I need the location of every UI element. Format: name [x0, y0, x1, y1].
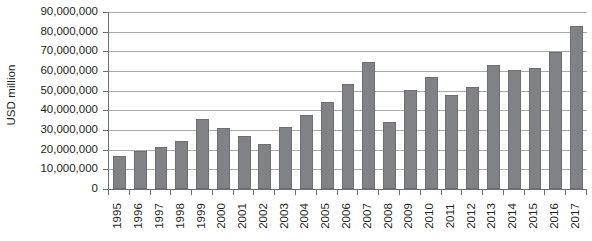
x-axis-tick-label-text: 2006	[341, 203, 353, 229]
x-axis-tick-label-text: 2011	[445, 204, 457, 229]
x-axis-tick-mark	[441, 190, 442, 195]
bar	[238, 136, 251, 189]
x-axis-tick-mark	[565, 190, 566, 195]
x-axis-tick-label-text: 2015	[528, 203, 540, 229]
x-axis-tick-mark	[274, 190, 275, 195]
x-axis-tick-label-text: 2010	[424, 203, 436, 229]
bar	[466, 87, 479, 189]
x-axis-tick-mark	[191, 190, 192, 195]
x-axis-tick-mark	[357, 190, 358, 195]
bar	[155, 147, 168, 189]
y-axis-tick-label: 80,000,000	[40, 26, 98, 38]
x-axis-tick-label-text: 2013	[487, 203, 499, 229]
x-axis-tick-label-text: 2016	[549, 203, 561, 229]
x-axis-tick-label-text: 2009	[404, 203, 416, 229]
x-axis-tick-mark	[212, 190, 213, 195]
x-axis-tick-label-text: 2003	[279, 203, 291, 229]
x-axis-tick-mark	[316, 190, 317, 195]
y-axis-tick-label: 20,000,000	[40, 144, 98, 156]
x-axis-tick-mark	[420, 190, 421, 195]
y-axis-tick-label: 30,000,000	[40, 124, 98, 136]
bar	[113, 156, 126, 189]
bars-layer	[109, 12, 587, 189]
x-axis-tick-label: 1999	[195, 196, 209, 240]
x-axis-tick-label: 2002	[257, 196, 271, 240]
bar	[445, 95, 458, 189]
x-axis-tick-label: 2010	[423, 196, 437, 240]
x-axis-tick-label: 2016	[548, 196, 562, 240]
x-axis-tick-label: 2008	[382, 196, 396, 240]
y-axis-tick-label: 40,000,000	[40, 105, 98, 117]
x-axis-tick-label-text: 1999	[196, 203, 208, 229]
x-axis-tick-label: 1995	[111, 196, 125, 240]
x-axis-tick-label: 1998	[174, 196, 188, 240]
x-axis-tick-label: 2009	[402, 196, 416, 240]
y-axis-tick-label: 50,000,000	[40, 85, 98, 97]
x-axis-tick-label: 1996	[132, 196, 146, 240]
bar	[300, 115, 313, 189]
x-axis-tick-label-text: 2012	[466, 203, 478, 229]
x-axis-tick-label-text: 1995	[113, 203, 125, 229]
bar	[196, 119, 209, 189]
bar	[425, 77, 438, 189]
bar	[321, 102, 334, 189]
x-axis-tick-mark	[378, 190, 379, 195]
x-axis-tick-mark	[461, 190, 462, 195]
x-axis-tick-mark	[233, 190, 234, 195]
y-axis-tick-label: 90,000,000	[40, 6, 98, 18]
x-axis-tick-mark	[586, 190, 587, 195]
x-axis-tick-mark	[295, 190, 296, 195]
bar	[217, 128, 230, 189]
bar	[487, 65, 500, 189]
x-axis-tick-label-text: 2014	[508, 203, 520, 229]
x-axis-tick-mark	[253, 190, 254, 195]
bar	[529, 68, 542, 189]
bar	[134, 151, 147, 189]
x-axis-tick-mark	[399, 190, 400, 195]
x-axis-tick-mark	[544, 190, 545, 195]
bar	[508, 70, 521, 189]
x-axis-tick-label: 2005	[319, 196, 333, 240]
bar	[175, 141, 188, 189]
bar	[570, 26, 583, 189]
x-axis-tick-label: 2012	[465, 196, 479, 240]
bar	[404, 90, 417, 189]
x-axis-tick-labels: 1995199619971998199920002001200220032004…	[108, 196, 587, 241]
bar-chart: USD million 90,000,00080,000,00070,000,0…	[0, 0, 592, 241]
x-axis-tick-label-text: 2007	[362, 203, 374, 229]
x-axis-tick-mark	[337, 190, 338, 195]
x-axis-tick-label: 2003	[278, 196, 292, 240]
y-axis-title-label: USD million	[5, 64, 17, 125]
x-axis-tick-label-text: 2000	[217, 203, 229, 229]
x-axis-tick-label: 2017	[569, 196, 583, 240]
x-axis-tick-label: 2011	[444, 196, 458, 240]
x-axis-tick-label-text: 2008	[383, 203, 395, 229]
bar	[362, 62, 375, 189]
x-axis-tick-label-text: 1998	[175, 203, 187, 229]
x-axis-tick-label: 2001	[236, 196, 250, 240]
y-axis-tick-labels: 90,000,00080,000,00070,000,00060,000,000…	[20, 0, 104, 200]
x-axis-tick-mark	[524, 190, 525, 195]
x-axis-tick-label-text: 2005	[320, 203, 332, 229]
x-axis-tick-label-text: 2017	[570, 203, 582, 229]
x-axis-tick-label: 2015	[527, 196, 541, 240]
bar	[383, 122, 396, 189]
x-axis-tick-mark	[503, 190, 504, 195]
y-axis-title: USD million	[0, 0, 22, 190]
x-axis-tick-label-text: 1996	[133, 203, 145, 229]
x-axis-tick-label-text: 2001	[237, 203, 249, 229]
bar	[549, 52, 562, 189]
bar	[258, 144, 271, 189]
plot-area	[108, 12, 587, 190]
x-axis-tick-label: 2013	[485, 196, 499, 240]
x-axis-tick-label: 2007	[361, 196, 375, 240]
bar	[279, 127, 292, 189]
y-axis-tick-label: 70,000,000	[40, 46, 98, 58]
y-axis-tick-label: 10,000,000	[40, 164, 98, 176]
x-axis-tick-mark	[150, 190, 151, 195]
x-axis-tick-label-text: 2002	[258, 203, 270, 229]
y-axis-tick-label: 60,000,000	[40, 65, 98, 77]
x-axis-tick-label-text: 2004	[300, 203, 312, 229]
x-axis-tick-label-text: 1997	[154, 203, 166, 229]
x-axis-tick-label: 1997	[153, 196, 167, 240]
